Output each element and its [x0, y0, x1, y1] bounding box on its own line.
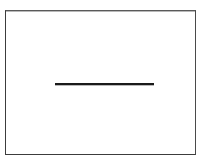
horizontal-line-shape: [55, 83, 154, 85]
rectangle-border: [5, 10, 196, 155]
figure-canvas: Horizontal line segment inside rectangul…: [0, 0, 208, 164]
figure-title: Horizontal line segment inside rectangul…: [0, 0, 1, 1]
